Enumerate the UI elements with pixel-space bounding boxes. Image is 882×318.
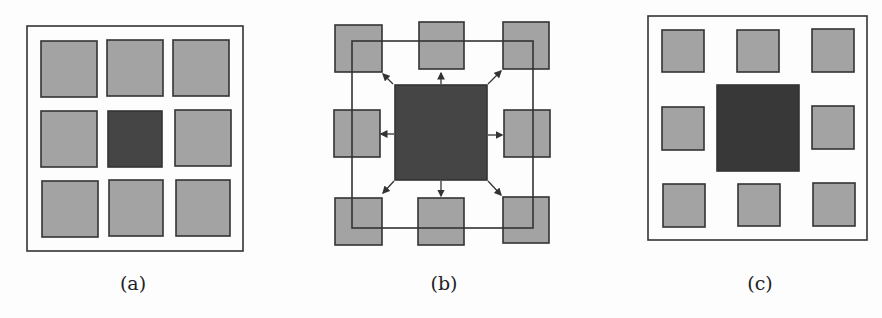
caption-a: (a) xyxy=(120,272,146,294)
panel-c xyxy=(648,16,867,240)
cell-b-br xyxy=(503,197,549,243)
cell-a-bl xyxy=(42,181,98,237)
cell-c-tr xyxy=(812,29,854,72)
cell-c-mr xyxy=(812,106,854,149)
figure-canvas xyxy=(0,0,882,318)
cell-a-tr xyxy=(173,40,229,96)
arrow-up-right xyxy=(488,71,501,84)
cell-a-ml xyxy=(41,111,97,167)
cell-a-bm xyxy=(109,180,163,236)
caption-c: (c) xyxy=(747,272,772,294)
cell-b-center-dark xyxy=(395,85,487,180)
arrow-up-left xyxy=(383,74,393,84)
cell-b-tr xyxy=(503,22,549,69)
cell-b-mr xyxy=(504,110,550,157)
cell-c-bl xyxy=(663,184,705,227)
cell-c-tl xyxy=(662,30,704,72)
arrow-down-right xyxy=(488,181,501,195)
cell-c-tm xyxy=(737,30,779,72)
cell-b-tl xyxy=(335,25,382,72)
cell-b-bl xyxy=(335,198,382,245)
panel-b xyxy=(334,22,550,245)
panel-a xyxy=(27,26,243,251)
cell-b-ml xyxy=(334,110,380,157)
cell-c-center-dark xyxy=(717,85,799,171)
cell-a-center-dark xyxy=(108,111,162,167)
cell-c-br xyxy=(813,183,855,226)
arrow-down-left xyxy=(383,181,394,193)
cell-a-br xyxy=(176,180,230,236)
cell-b-tm xyxy=(419,22,464,69)
cell-a-tl xyxy=(41,41,97,97)
cell-c-ml xyxy=(662,107,704,150)
caption-b: (b) xyxy=(431,272,458,294)
cell-b-bm xyxy=(418,198,464,245)
cell-a-mr xyxy=(175,110,231,166)
cell-a-tm xyxy=(107,40,163,96)
cell-c-bm xyxy=(738,184,780,226)
